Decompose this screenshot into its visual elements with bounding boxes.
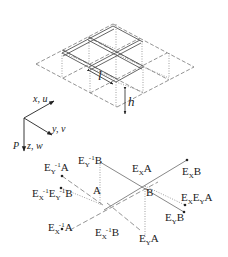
z-axis-label: z, w: [27, 140, 43, 151]
op-ex-ey-a: EXEYA: [181, 192, 213, 205]
x-axis-label: x, u: [33, 93, 47, 104]
op-ey-a: EYA: [139, 233, 159, 246]
bottom-operator-diagram: [60, 159, 189, 237]
op-ex-b: EXB: [182, 166, 201, 179]
lattice-diagram: [0, 0, 228, 257]
op-ex-a: EXA: [132, 163, 152, 176]
node-b-label: B: [146, 187, 153, 198]
op-ex-inv-b: EX-1B: [95, 227, 119, 240]
y-axis-arrow: [24, 118, 52, 135]
spacing-label: l: [98, 70, 102, 81]
op-ex-inv-a: EX-1A: [48, 222, 73, 235]
y-axis-label: y, v: [52, 123, 65, 134]
op-ey-inv-b: EY-1B: [78, 155, 102, 168]
top-grid: [36, 24, 194, 114]
load-label: P: [13, 140, 19, 151]
op-ex-inv-ey-inv-b: EX-1EY-1B: [32, 188, 73, 201]
node-a-label: A: [93, 185, 101, 196]
op-ey-b: EYB: [165, 212, 184, 225]
height-label: h: [128, 96, 135, 107]
op-ey-inv-a: EY-1A: [44, 162, 69, 175]
